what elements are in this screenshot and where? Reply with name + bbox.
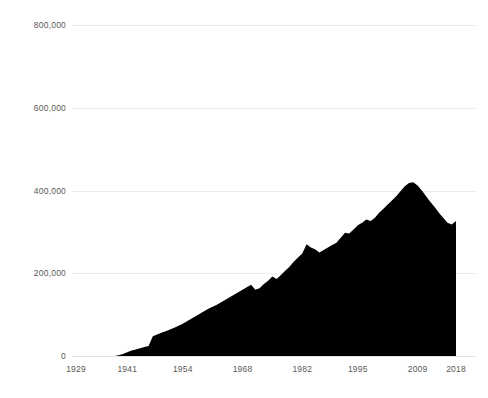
- y-tick-label: 600,000: [0, 103, 66, 113]
- x-tick-label: 1929: [66, 364, 86, 374]
- x-tick-label: 2009: [408, 364, 428, 374]
- y-tick-label: 800,000: [0, 20, 66, 30]
- x-tick-label: 1982: [292, 364, 312, 374]
- y-tick-label: 400,000: [0, 186, 66, 196]
- y-tick-label: 0: [0, 351, 66, 361]
- area-fill: [76, 182, 456, 356]
- area-chart: 800,000600,000400,000200,0000 1929194119…: [0, 0, 488, 398]
- x-tick-label: 1954: [173, 364, 193, 374]
- y-tick-label: 200,000: [0, 268, 66, 278]
- x-tick-label: 1995: [348, 364, 368, 374]
- x-tick-label: 2018: [446, 364, 466, 374]
- area-series: [76, 182, 456, 356]
- chart-canvas: [0, 0, 488, 398]
- x-tick-label: 1968: [233, 364, 253, 374]
- x-tick-label: 1941: [117, 364, 137, 374]
